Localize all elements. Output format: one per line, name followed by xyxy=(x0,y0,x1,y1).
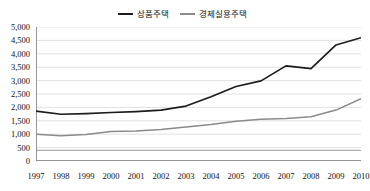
y-axis-tick-label: 0 xyxy=(26,157,30,166)
y-axis-tick-label: 1,500 xyxy=(11,117,30,126)
x-axis-tick-label: 2008 xyxy=(303,172,320,181)
x-axis-tick-label: 1999 xyxy=(78,172,95,181)
plot-svg xyxy=(36,27,361,161)
x-axis-tick-label: 1997 xyxy=(28,172,45,181)
legend-line-swatch-icon xyxy=(180,13,195,15)
x-axis-tick-label: 2004 xyxy=(203,172,220,181)
y-axis-tick-label: 1,000 xyxy=(11,130,30,139)
x-axis-tick-label: 2003 xyxy=(178,172,195,181)
legend-label: 경제실용주택 xyxy=(199,10,247,19)
y-axis-tick-label: 500 xyxy=(17,143,30,152)
x-axis-tick-label: 2009 xyxy=(328,172,345,181)
x-axis-tick-label: 2000 xyxy=(103,172,120,181)
x-axis-tick-label: 2005 xyxy=(228,172,245,181)
x-axis-tick-label: 1998 xyxy=(53,172,70,181)
y-axis-tick-label: 3,000 xyxy=(11,76,30,85)
y-axis-tick-label: 5,000 xyxy=(11,23,30,32)
x-axis-tick-label: 2001 xyxy=(128,172,145,181)
x-axis-tick-label: 2010 xyxy=(353,172,370,181)
series-line-2 xyxy=(36,99,361,136)
legend-label: 상품주택 xyxy=(137,10,169,19)
x-axis-labels: 1997199819992000200120022003200420052006… xyxy=(36,172,361,186)
x-axis-tick-label: 2006 xyxy=(253,172,270,181)
legend-entry[interactable]: 상품주택 xyxy=(118,10,169,19)
x-axis-tick-label: 2007 xyxy=(278,172,295,181)
y-axis-labels: 5,0004,5004,0003,5003,0002,5002,0001,500… xyxy=(0,27,33,161)
legend-line-swatch-icon xyxy=(118,13,133,15)
legend-entry[interactable]: 경제실용주택 xyxy=(180,10,247,19)
chart-legend: 상품주택경제실용주택 xyxy=(0,7,365,21)
y-axis-tick-label: 3,500 xyxy=(11,63,30,72)
x-axis-tick-label: 2002 xyxy=(153,172,170,181)
y-axis-tick-label: 4,000 xyxy=(11,50,30,59)
plot-area xyxy=(36,27,361,161)
y-axis-tick-label: 2,500 xyxy=(11,90,30,99)
y-axis-tick-label: 2,000 xyxy=(11,103,30,112)
y-axis-tick-label: 4,500 xyxy=(11,36,30,45)
series-line-1 xyxy=(36,38,361,115)
